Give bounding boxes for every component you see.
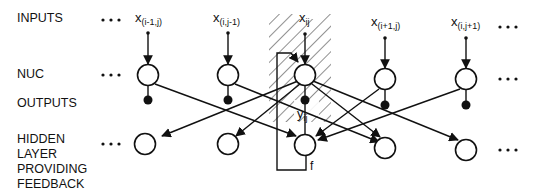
hidden-node-4 [375, 138, 396, 159]
neural-network-diagram: INPUTS NUC OUTPUTS HIDDEN LAYER PROVIDIN… [0, 0, 533, 194]
input-label-x-i-1-j: x(i-1,j) [135, 10, 162, 27]
nuc-node-ij [295, 65, 316, 86]
output-dot-4 [381, 101, 390, 110]
nuc-node-i+1-j [375, 69, 396, 90]
hidden-node-1 [135, 134, 156, 155]
hidden-node-2 [218, 134, 239, 155]
nuc-node-i-j+1 [456, 69, 477, 90]
output-dot-ij [301, 96, 310, 105]
nuc-node-i-1-j [138, 65, 159, 86]
input-label-x-i-j+1: x(i,j+1) [451, 14, 480, 31]
input-label-x-i+1-j: x(i+1,j) [371, 14, 400, 31]
hidden-node-5 [456, 140, 477, 161]
output-dot-2 [224, 96, 233, 105]
output-dot-1 [144, 96, 153, 105]
nuc-node-i-j-1 [218, 65, 239, 86]
hidden-node-ij [295, 135, 316, 156]
input-label-x-i-j-1: x(i,j-1) [213, 10, 240, 27]
output-dot-5 [462, 101, 471, 110]
feedback-label-f: f [310, 159, 314, 173]
